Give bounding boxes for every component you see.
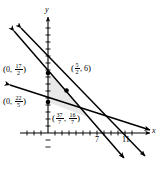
fraction-denominator: 7 — [69, 118, 77, 125]
fraction-16-7: 16 7 — [69, 112, 77, 126]
fraction-37-7: 37 7 — [56, 112, 64, 126]
point-y-part: , 6 — [80, 64, 88, 73]
vertex-dot-0-17-2 — [46, 71, 51, 76]
point-label-0-22-5: (0, 22 5 ) — [3, 95, 26, 109]
point-x-part: 0, — [6, 65, 12, 74]
paren-close: ) — [77, 113, 80, 123]
paren-close: ) — [23, 96, 26, 106]
vertex-dot-0-22-5 — [46, 100, 51, 105]
point-label-5-2-6: ( 5 2 , 6) — [71, 62, 91, 76]
point-separator: , — [64, 114, 66, 123]
x-tick-label-11: 11 — [122, 136, 130, 144]
fraction-17-2: 17 2 — [15, 63, 23, 77]
point-label-0-17-2: (0, 17 2 ) — [3, 63, 26, 77]
fraction-5-2: 5 2 — [75, 62, 80, 76]
fraction-numerator: 16 — [69, 112, 77, 118]
fraction-denominator: 2 — [75, 68, 80, 75]
paren-close: ) — [23, 64, 26, 74]
fraction-numerator: 22 — [15, 95, 23, 101]
constraint-line-3 — [10, 85, 150, 130]
x-axis-label: x — [152, 127, 156, 135]
point-x-part: 0, — [6, 97, 12, 106]
fraction-denominator: 2 — [15, 69, 23, 76]
point-label-37-7-16-7: ( 37 7 , 16 7 ) — [52, 112, 80, 126]
fraction-numerator: 37 — [56, 112, 64, 118]
constraint-line-1 — [14, 31, 124, 158]
fraction-denominator: 5 — [15, 101, 23, 108]
paren-close: ) — [88, 63, 91, 73]
graph-canvas — [0, 0, 163, 169]
fraction-22-5: 22 5 — [15, 95, 23, 109]
fraction-denominator: 7 — [56, 118, 64, 125]
fraction-numerator: 17 — [15, 63, 23, 69]
graph-figure: y x 7 11 (0, 17 2 ) (0, 22 5 ) ( 5 2 , 6… — [0, 0, 163, 169]
shaded-feasible-region — [48, 73, 87, 117]
x-tick-label-7: 7 — [95, 136, 99, 144]
y-axis-label: y — [45, 6, 49, 14]
vertex-dot-5-2-6 — [64, 88, 69, 93]
